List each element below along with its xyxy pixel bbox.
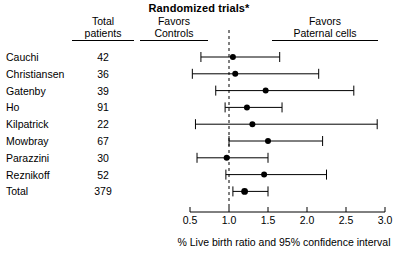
forest-plot-figure: Randomized trials* Total patients Favors… — [0, 0, 398, 253]
point-estimate-total — [241, 188, 248, 195]
point-estimate-gatenby — [263, 88, 269, 94]
x-axis-tick-label-1.0: 1.0 — [222, 214, 237, 226]
point-estimate-mowbray — [265, 138, 271, 144]
point-estimate-cauchi — [230, 54, 236, 60]
point-estimate-ho — [244, 104, 250, 110]
x-axis-tick-label-3.0: 3.0 — [378, 214, 393, 226]
point-estimate-reznikoff — [261, 172, 267, 178]
forest-plot-canvas: 0.51.01.52.02.53.0 — [0, 0, 398, 253]
point-estimate-christiansen — [232, 71, 238, 77]
x-axis-caption: % Live birth ratio and 95% confidence in… — [170, 236, 398, 248]
x-axis-tick-label-2.5: 2.5 — [339, 214, 354, 226]
x-axis-tick-label-1.5: 1.5 — [261, 214, 276, 226]
x-axis-tick-label-2.0: 2.0 — [300, 214, 315, 226]
x-axis-tick-label-0.5: 0.5 — [183, 214, 198, 226]
point-estimate-parazzini — [224, 155, 230, 161]
point-estimate-kilpatrick — [249, 121, 255, 127]
